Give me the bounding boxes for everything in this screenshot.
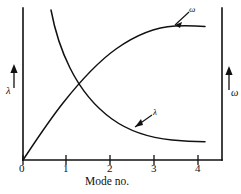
omega-curve-annotation: ω bbox=[189, 5, 195, 14]
lambda-curve bbox=[51, 10, 205, 142]
lambda-curve-annotation: λ bbox=[153, 108, 157, 117]
figure-container: 0 1 2 3 4 Mode no. λ ω ω λ bbox=[0, 0, 241, 194]
left-axis-label: λ bbox=[6, 86, 11, 97]
x-tick-label-1: 1 bbox=[63, 163, 69, 174]
x-tick-label-4: 4 bbox=[195, 163, 201, 174]
lambda-direction-arrow bbox=[10, 64, 17, 88]
x-tick-label-2: 2 bbox=[107, 163, 113, 174]
x-axis-title: Mode no. bbox=[85, 176, 129, 188]
x-tick-label-0: 0 bbox=[19, 163, 25, 174]
x-tick-label-3: 3 bbox=[151, 163, 157, 174]
right-axis-label: ω bbox=[231, 88, 238, 99]
plot-canvas bbox=[0, 0, 241, 194]
lambda-annotation-leader bbox=[135, 115, 152, 127]
